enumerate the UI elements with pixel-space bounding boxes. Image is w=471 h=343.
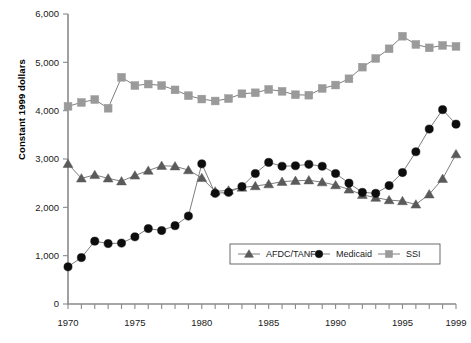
legend-label: SSI (406, 249, 421, 259)
y-tick-label: 1,000 (35, 250, 59, 261)
data-point-circle (291, 162, 299, 170)
chart-plot-area: 01,0002,0003,0004,0005,0006,000197019751… (0, 0, 471, 343)
y-tick-label: 4,000 (35, 105, 59, 116)
data-point-triangle (304, 176, 314, 184)
data-point-circle (171, 222, 179, 230)
data-point-square (292, 91, 300, 99)
data-point-square (104, 104, 112, 112)
y-tick-label: 3,000 (35, 153, 59, 164)
data-point-triangle (143, 166, 153, 174)
data-point-square (439, 42, 447, 50)
data-point-circle (398, 168, 406, 176)
data-point-square (332, 81, 340, 89)
data-point-circle (144, 225, 152, 233)
data-point-circle (184, 212, 192, 220)
data-point-circle (372, 189, 380, 197)
data-point-circle (251, 169, 259, 177)
data-point-square (77, 99, 85, 107)
data-point-circle (91, 237, 99, 245)
data-point-triangle (157, 161, 167, 169)
data-point-circle (198, 160, 206, 168)
data-point-square (278, 87, 286, 95)
data-point-circle (358, 188, 366, 196)
y-tick-label: 6,000 (35, 8, 59, 19)
x-tick-label: 1990 (325, 317, 346, 328)
x-tick-label: 1970 (57, 317, 78, 328)
data-point-square (171, 86, 179, 94)
data-point-triangle (63, 159, 73, 167)
data-point-square (372, 55, 380, 63)
data-point-square (425, 44, 433, 52)
data-point-square (265, 86, 273, 94)
data-point-circle (211, 189, 219, 197)
data-point-square (158, 82, 166, 90)
data-point-square (118, 73, 126, 81)
data-point-circle (385, 181, 393, 189)
series-line-ssi (68, 36, 456, 108)
data-point-circle (117, 239, 125, 247)
data-point-triangle (451, 149, 461, 157)
data-point-circle (278, 162, 286, 170)
data-point-square (345, 75, 353, 83)
data-point-circle (77, 254, 85, 262)
data-point-circle (265, 158, 273, 166)
data-point-circle (452, 120, 460, 128)
x-tick-label: 1985 (258, 317, 279, 328)
data-point-square (412, 41, 420, 49)
data-point-square (318, 85, 326, 93)
data-point-square (131, 82, 139, 90)
data-point-circle (104, 239, 112, 247)
data-point-circle (158, 226, 166, 234)
data-point-square (358, 63, 366, 71)
data-point-circle (318, 162, 326, 170)
x-tick-label: 1995 (392, 317, 413, 328)
data-point-square (211, 97, 219, 105)
data-point-square (305, 91, 313, 99)
x-tick-label: 1980 (191, 317, 212, 328)
data-point-triangle (130, 171, 140, 179)
data-point-square (385, 250, 392, 257)
data-point-triangle (438, 174, 448, 182)
data-point-circle (425, 125, 433, 133)
data-point-circle (131, 233, 139, 241)
data-point-square (144, 80, 152, 88)
y-tick-label: 0 (54, 298, 59, 309)
data-point-square (251, 89, 259, 97)
data-point-circle (345, 179, 353, 187)
data-point-circle (305, 160, 313, 168)
series-line-afdc-tanf (68, 154, 456, 204)
data-point-square (385, 45, 393, 53)
x-tick-label: 1999 (445, 317, 466, 328)
data-point-square (64, 102, 72, 110)
chart-figure: Constant 1999 dollars 01,0002,0003,0004,… (0, 0, 471, 343)
data-point-circle (315, 250, 323, 258)
data-point-square (225, 95, 233, 103)
data-point-triangle (90, 170, 100, 178)
data-point-circle (64, 263, 72, 271)
y-tick-label: 2,000 (35, 202, 59, 213)
y-tick-label: 5,000 (35, 57, 59, 68)
data-point-circle (331, 169, 339, 177)
data-point-square (198, 95, 206, 103)
data-point-square (452, 42, 460, 50)
legend-label: Medicaid (336, 249, 372, 259)
data-point-square (91, 96, 99, 104)
series-line-medicaid (68, 110, 456, 267)
data-point-square (185, 92, 193, 100)
data-point-circle (224, 188, 232, 196)
data-point-square (238, 90, 246, 98)
data-point-square (399, 32, 407, 40)
x-tick-label: 1975 (124, 317, 145, 328)
data-point-triangle (184, 165, 194, 173)
data-point-circle (439, 106, 447, 114)
data-point-circle (412, 148, 420, 156)
data-point-circle (238, 182, 246, 190)
